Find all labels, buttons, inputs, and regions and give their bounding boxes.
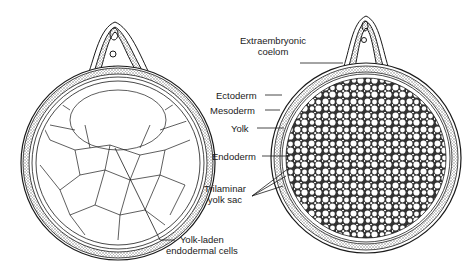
label-line: endodermal cells: [166, 245, 238, 256]
label-trilaminar-yolk-sac: Trilaminar yolk sac: [204, 183, 246, 205]
label-yolk-laden-endodermal-cells: Yolk-laden endodermal cells: [166, 234, 238, 256]
label-yolk: Yolk: [231, 123, 249, 134]
label-line: Trilaminar: [204, 183, 246, 194]
label-endoderm: Endoderm: [212, 151, 256, 162]
label-line: Yolk-laden: [166, 234, 238, 245]
label-extraembryonic-coelom: Extraembryonic coelom: [240, 35, 306, 57]
right-yolk-sac: [271, 63, 461, 253]
label-line: yolk sac: [204, 194, 246, 205]
left-yolk-sac: [21, 66, 215, 260]
label-mesoderm: Mesoderm: [210, 105, 255, 116]
label-ectoderm: Ectoderm: [216, 90, 257, 101]
label-line: coelom: [240, 46, 306, 57]
label-line: Extraembryonic: [240, 35, 306, 46]
